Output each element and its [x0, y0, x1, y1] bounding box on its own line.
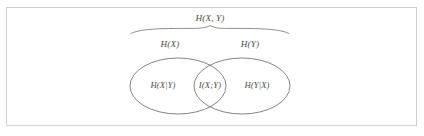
venn-diagram: H(X, Y) H(X) H(Y) H(X|Y) I(X;Y) H(Y|X) [0, 0, 424, 136]
mutual-information-label: I(X;Y) [198, 80, 221, 90]
joint-entropy-label: H(X, Y) [194, 13, 224, 23]
joint-entropy-brace [131, 26, 289, 34]
conditional-y-given-x-label: H(Y|X) [243, 80, 269, 90]
figure-page: H(X, Y) H(X) H(Y) H(X|Y) I(X;Y) H(Y|X) [0, 0, 424, 136]
entropy-y-label: H(Y) [240, 39, 259, 49]
entropy-x-label: H(X) [160, 39, 180, 49]
conditional-x-given-y-label: H(X|Y) [149, 80, 175, 90]
